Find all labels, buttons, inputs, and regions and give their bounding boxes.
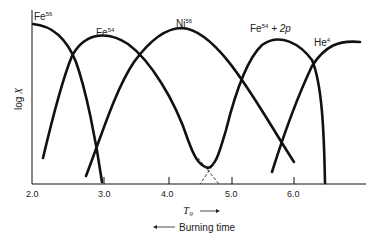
x-tick-4: 4.0 (161, 189, 174, 199)
x-ticks (104, 177, 294, 184)
label-fe54-2p: Fe54 + 2p (250, 23, 291, 34)
y-axis-label: log X (13, 87, 24, 110)
abundance-chart: 2.0 3.0 4.0 5.0 6.0 T9 Burning time log … (0, 0, 378, 236)
curve-fe54 (43, 35, 208, 168)
curve-he4 (272, 42, 360, 172)
label-ni56: Ni56 (176, 18, 193, 29)
x-tick-6: 6.0 (287, 189, 300, 199)
label-he4: He4 (314, 37, 331, 48)
x-tick-5: 5.0 (225, 189, 238, 199)
curve-ni56 (86, 28, 294, 176)
x-tick-2: 2.0 (26, 189, 39, 199)
x-tick-3: 3.0 (98, 189, 111, 199)
label-fe56: Fe56 (34, 11, 53, 22)
burning-time-caption: Burning time (179, 222, 236, 233)
x-axis-label: T9 (183, 204, 193, 218)
curve-fe54-2p (208, 39, 325, 183)
